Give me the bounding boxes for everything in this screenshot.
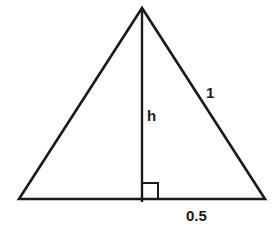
- triangle-diagram: h 1 0.5: [0, 0, 280, 233]
- right-angle-marker: [142, 183, 158, 199]
- side-length-label: 1: [206, 84, 214, 101]
- height-label: h: [147, 107, 156, 124]
- half-base-label: 0.5: [186, 207, 207, 224]
